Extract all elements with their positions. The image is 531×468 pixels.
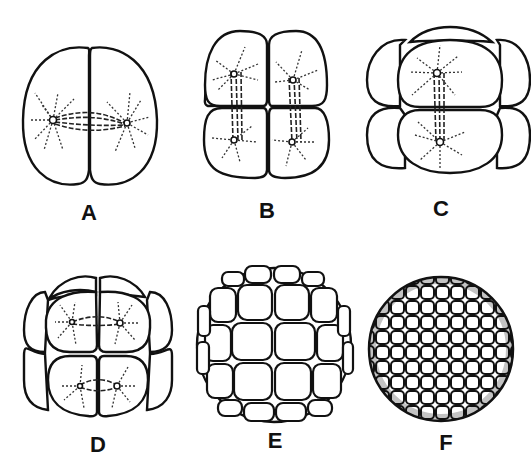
panel-label-e: E [268, 428, 283, 454]
panel-label-c: C [433, 196, 449, 222]
panel-label-a: A [81, 200, 97, 226]
panel-label-b: B [259, 198, 275, 224]
panel-b-four-cell [204, 31, 329, 178]
panel-f-blastula [365, 275, 520, 425]
cleavage-diagram [0, 0, 531, 468]
panel-a-two-cell [23, 47, 157, 184]
panel-label-d: D [90, 432, 106, 458]
panel-e-morula [197, 266, 353, 422]
panel-d-sixteen-cell [24, 276, 172, 416]
panel-c-eight-cell [367, 27, 530, 173]
panel-label-f: F [439, 430, 452, 456]
